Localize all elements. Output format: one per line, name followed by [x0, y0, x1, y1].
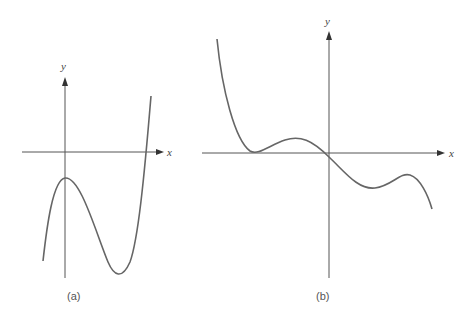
figure-canvas: x y x y [0, 0, 471, 322]
y-axis-label-a: y [60, 60, 66, 72]
x-axis-label-b: x [448, 147, 454, 159]
curve-a [43, 96, 151, 274]
caption-a: (a) [67, 290, 80, 302]
y-axis-arrow-icon [326, 31, 332, 40]
caption-b: (b) [316, 290, 329, 302]
curve-b [217, 39, 432, 209]
x-axis-arrow-icon [437, 150, 445, 156]
x-axis-arrow-icon [156, 149, 164, 155]
y-axis-arrow-icon [62, 77, 68, 86]
panel-b: x y [202, 15, 454, 278]
y-axis-label-b: y [324, 15, 330, 27]
x-axis-label-a: x [166, 146, 172, 158]
panel-a: x y [22, 60, 172, 278]
